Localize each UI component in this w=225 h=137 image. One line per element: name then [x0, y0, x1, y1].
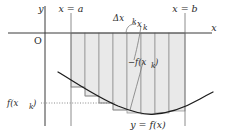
riemann-rectangles	[71, 33, 185, 114]
label-delta-xk: Δx k	[112, 13, 137, 26]
riemann-rectangle	[169, 33, 185, 111]
riemann-rectangle	[155, 33, 169, 113]
riemann-rectangle	[113, 33, 127, 110]
y-axis-label: y	[37, 3, 44, 14]
label-curve-equation: y = f(x)	[129, 119, 166, 130]
riemann-rectangle-highlight	[127, 33, 141, 113]
label-f-xk: f(x k )	[6, 98, 36, 111]
riemann-rectangle	[141, 33, 155, 114]
label-f-xk-main: f(x	[6, 98, 18, 108]
x-axis-label: x	[211, 22, 217, 33]
label-xk: x k	[137, 19, 148, 32]
riemann-rectangle	[71, 33, 85, 87]
riemann-sum-diagram: y x O x = a x = b Δx k x k −f(x k ) f(x …	[0, 0, 225, 137]
riemann-rectangle	[99, 33, 113, 103]
label-negative-f-xk-main: −f(x	[128, 57, 147, 67]
label-xk-main: x	[137, 19, 142, 29]
label-negative-f-xk-close: )	[154, 57, 158, 67]
riemann-rectangle	[85, 33, 99, 96]
label-xk-subscript: k	[143, 23, 148, 32]
label-f-xk-close: )	[32, 98, 36, 108]
delta-xk-brace	[126, 24, 136, 33]
label-delta-xk-main: Δx	[112, 13, 124, 23]
label-x-equals-b: x = b	[172, 3, 197, 14]
label-x-equals-a: x = a	[58, 3, 83, 14]
riemann-sum-figure: y x O x = a x = b Δx k x k −f(x k ) f(x …	[0, 0, 225, 137]
origin-label: O	[34, 35, 42, 46]
